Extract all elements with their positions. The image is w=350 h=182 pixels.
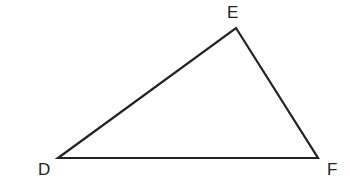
vertex-label-f: F	[327, 161, 337, 178]
triangle-svg	[0, 0, 350, 182]
vertex-label-d: D	[38, 161, 50, 178]
vertex-label-e: E	[227, 4, 238, 21]
triangle-def	[58, 28, 318, 158]
triangle-diagram: E D F	[0, 0, 350, 182]
